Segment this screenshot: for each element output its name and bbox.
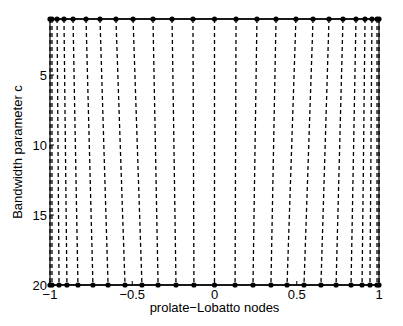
y-axis-ticks: 5101520 xyxy=(33,68,54,293)
node-trajectory xyxy=(86,19,93,285)
x-tick-label: −0.5 xyxy=(119,287,145,302)
node-trajectory xyxy=(370,19,372,285)
x-axis-label: prolate−Lobatto nodes xyxy=(150,300,280,315)
node-trajectory xyxy=(235,19,236,285)
y-tick-label: 10 xyxy=(33,138,47,153)
node-trajectory xyxy=(133,19,142,285)
node-trajectory xyxy=(64,19,67,285)
node-trajectory xyxy=(57,19,59,285)
node-trajectory xyxy=(351,19,356,285)
node-trajectory xyxy=(321,19,329,285)
node-trajectory xyxy=(336,19,343,285)
x-tick-label: 1 xyxy=(375,287,382,302)
node-trajectory xyxy=(73,19,78,285)
node-trajectory xyxy=(193,19,194,285)
plot-area: −1−0.500.51 5101520 xyxy=(33,16,383,302)
node-trajectory xyxy=(253,19,257,285)
node-trajectory xyxy=(172,19,176,285)
node-trajectory xyxy=(362,19,365,285)
node-trajectory xyxy=(116,19,125,285)
y-tick-label: 5 xyxy=(40,68,47,83)
node-trajectory xyxy=(100,19,108,285)
node-trajectory xyxy=(287,19,296,285)
chart-figure: −1−0.500.51 5101520 prolate−Lobatto node… xyxy=(0,0,403,326)
node-trajectory xyxy=(153,19,158,285)
y-tick-label: 15 xyxy=(33,208,47,223)
x-tick-label: 0.5 xyxy=(288,287,306,302)
y-tick-label: 20 xyxy=(33,278,47,293)
y-axis-label: Bandwidth parameter c xyxy=(10,85,25,219)
node-trajectory xyxy=(304,19,313,285)
node-trajectory xyxy=(271,19,276,285)
node-trajectories xyxy=(50,19,379,285)
